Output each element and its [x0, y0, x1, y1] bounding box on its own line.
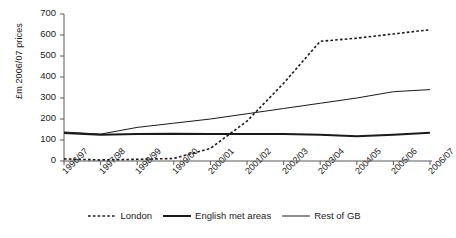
legend-item[interactable]: English met areas	[163, 210, 271, 221]
data-series	[64, 30, 430, 160]
legend-key-icon	[88, 212, 116, 220]
chart-legend: LondonEnglish met areasRest of GB	[0, 210, 449, 221]
legend-label: Rest of GB	[314, 210, 360, 221]
series-line-english-met-areas	[64, 133, 430, 137]
legend-label: London	[120, 210, 152, 221]
legend-key-icon	[163, 212, 191, 220]
axes	[60, 14, 432, 165]
legend-key-icon	[282, 212, 310, 220]
series-line-rest-of-gb	[64, 90, 430, 135]
legend-item[interactable]: Rest of GB	[282, 210, 360, 221]
legend-label: English met areas	[195, 210, 271, 221]
legend-item[interactable]: London	[88, 210, 152, 221]
